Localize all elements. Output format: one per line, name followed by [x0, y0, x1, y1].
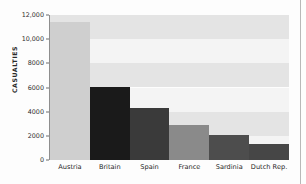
- bar-france: [169, 125, 209, 160]
- chart-figure: CASUALTIES 0200040006000800010,00012,000…: [0, 0, 306, 184]
- x-axis-tick-labels: AustriaBritainSpainFranceSardiniaDutch R…: [50, 163, 289, 171]
- bar-dutch-rep: [249, 144, 289, 160]
- x-axis-tick-label: France: [169, 163, 209, 171]
- y-axis-tick-mark: [46, 87, 49, 88]
- bar-spain: [130, 108, 170, 160]
- y-axis-tick-mark: [46, 160, 49, 161]
- y-axis-tick-mark: [46, 39, 49, 40]
- y-axis-tick-mark: [46, 63, 49, 64]
- bar-slot: [169, 15, 209, 160]
- bar-slot: [130, 15, 170, 160]
- bar-slot: [249, 15, 289, 160]
- plot-area: [50, 15, 289, 160]
- bar-slot: [50, 15, 90, 160]
- x-axis-tick-label: Britain: [90, 163, 130, 171]
- y-axis-tick-mark: [46, 15, 49, 16]
- x-axis-tick-label: Dutch Rep.: [249, 163, 289, 171]
- y-axis-tick-label: 12,000: [22, 11, 44, 19]
- y-axis-tick-label: 4000: [28, 108, 44, 116]
- y-axis-tick-label: 0: [40, 156, 44, 164]
- y-axis-tick-label: 8000: [28, 59, 44, 67]
- bar-slot: [90, 15, 130, 160]
- x-axis-tick-label: Spain: [130, 163, 170, 171]
- y-axis-tick-mark: [46, 135, 49, 136]
- x-axis-tick-label: Sardinia: [209, 163, 249, 171]
- y-axis-tick-label: 10,000: [22, 35, 44, 43]
- bar-slot: [209, 15, 249, 160]
- x-axis-tick-label: Austria: [50, 163, 90, 171]
- bar-austria: [50, 22, 90, 160]
- page-edge-rule: [300, 0, 301, 184]
- y-axis-tick-mark: [46, 111, 49, 112]
- y-axis-tick-labels: 0200040006000800010,00012,000: [8, 0, 44, 184]
- bar-series: [50, 15, 289, 160]
- y-axis-tick-label: 6000: [28, 84, 44, 92]
- y-axis-tick-label: 2000: [28, 132, 44, 140]
- bar-britain: [90, 87, 130, 160]
- bar-sardinia: [209, 135, 249, 160]
